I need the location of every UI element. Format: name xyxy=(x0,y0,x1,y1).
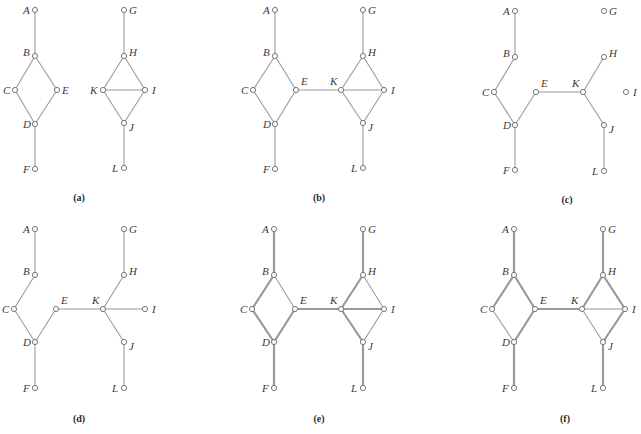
vertex-H xyxy=(360,272,365,277)
vertex-D xyxy=(32,339,37,344)
vertex-label-B: B xyxy=(503,47,510,59)
edge-K-J xyxy=(341,90,363,123)
edge-B-C-highlighted xyxy=(252,275,274,309)
vertex-label-G: G xyxy=(129,223,137,235)
vertex-F xyxy=(512,167,517,172)
vertex-D xyxy=(272,121,277,126)
vertex-I xyxy=(623,89,628,94)
panel-caption-f: (f) xyxy=(560,413,570,425)
vertex-label-H: H xyxy=(128,265,138,277)
vertex-label-D: D xyxy=(22,118,31,130)
vertex-A xyxy=(271,226,276,231)
vertex-label-L: L xyxy=(590,382,597,394)
vertex-L xyxy=(360,385,365,390)
vertex-B xyxy=(272,53,277,58)
vertex-K xyxy=(338,87,343,92)
vertex-label-H: H xyxy=(367,46,377,58)
vertex-L xyxy=(360,165,365,170)
vertex-label-L: L xyxy=(111,162,118,174)
vertex-C xyxy=(249,306,254,311)
vertex-label-D: D xyxy=(261,336,270,348)
vertex-label-G: G xyxy=(609,5,617,17)
panel-caption-a: (a) xyxy=(73,192,85,204)
vertex-D xyxy=(512,122,517,127)
vertex-B xyxy=(32,53,37,58)
vertex-label-I: I xyxy=(390,303,396,315)
vertex-B xyxy=(512,54,517,59)
vertex-F xyxy=(271,385,276,390)
vertex-G xyxy=(601,8,606,13)
vertex-C xyxy=(489,306,494,311)
edges xyxy=(492,229,625,388)
edge-I-J xyxy=(363,309,384,342)
edge-H-K-highlighted xyxy=(582,275,603,309)
vertex-E xyxy=(533,89,538,94)
vertex-I xyxy=(142,87,147,92)
vertex-C xyxy=(250,87,255,92)
edge-B-C xyxy=(15,56,35,90)
vertex-J xyxy=(121,120,126,125)
edge-B-C xyxy=(14,275,35,309)
vertex-B xyxy=(271,272,276,277)
vertex-label-J: J xyxy=(368,121,374,133)
vertex-C xyxy=(491,89,496,94)
edge-K-J xyxy=(103,90,124,123)
vertex-H xyxy=(600,272,605,277)
vertex-E xyxy=(292,306,297,311)
vertex-label-J: J xyxy=(608,340,614,352)
edge-B-E xyxy=(274,275,295,309)
edge-H-K xyxy=(103,56,124,90)
vertex-label-D: D xyxy=(262,118,271,130)
edge-B-E-highlighted xyxy=(514,275,535,309)
vertex-label-L: L xyxy=(111,382,118,394)
edge-H-I xyxy=(363,275,384,309)
vertex-A xyxy=(512,8,517,13)
vertex-label-I: I xyxy=(632,86,638,98)
figure-canvas: ABCEDFGHKIJL(a) ABCEDFGHKIJL(b) ABCEDFGH… xyxy=(0,0,641,434)
vertex-label-B: B xyxy=(23,265,30,277)
vertex-E xyxy=(293,87,298,92)
vertex-I xyxy=(142,306,147,311)
edge-H-I xyxy=(124,56,145,90)
vertex-label-C: C xyxy=(482,86,490,98)
vertex-G xyxy=(121,7,126,12)
vertex-label-C: C xyxy=(3,84,11,96)
vertex-label-A: A xyxy=(262,4,270,16)
vertex-label-J: J xyxy=(129,340,135,352)
edge-K-J-highlighted xyxy=(341,309,363,342)
vertex-label-F: F xyxy=(502,164,510,176)
vertex-label-B: B xyxy=(23,46,30,58)
vertex-label-G: G xyxy=(608,223,616,235)
vertex-J xyxy=(360,120,365,125)
vertex-label-K: K xyxy=(89,84,98,96)
vertex-J xyxy=(601,122,606,127)
edge-E-D xyxy=(275,90,296,124)
vertex-I xyxy=(622,306,627,311)
edge-H-I-highlighted xyxy=(603,275,625,309)
vertex-label-C: C xyxy=(240,303,248,315)
vertex-label-L: L xyxy=(350,162,357,174)
vertex-C xyxy=(12,87,17,92)
vertex-label-E: E xyxy=(60,294,68,306)
vertex-F xyxy=(511,385,516,390)
vertex-label-J: J xyxy=(368,340,374,352)
vertex-label-I: I xyxy=(151,84,157,96)
vertex-label-G: G xyxy=(129,4,137,16)
vertex-label-D: D xyxy=(502,119,511,131)
panel-caption-e: (e) xyxy=(313,413,324,425)
vertex-label-G: G xyxy=(368,223,376,235)
edge-I-J xyxy=(363,90,384,123)
vertex-label-H: H xyxy=(367,265,377,277)
vertex-label-H: H xyxy=(128,46,138,58)
vertex-label-E: E xyxy=(299,294,307,306)
panel-caption-d: (d) xyxy=(73,413,85,425)
vertex-label-I: I xyxy=(631,303,637,315)
vertex-label-D: D xyxy=(22,336,31,348)
edge-B-C xyxy=(494,57,515,92)
edge-D-E-highlighted xyxy=(514,309,535,342)
vertex-label-A: A xyxy=(501,223,509,235)
panel-caption-b: (b) xyxy=(313,192,325,204)
vertex-I xyxy=(381,87,386,92)
vertex-D xyxy=(32,121,37,126)
vertex-label-B: B xyxy=(263,46,270,58)
